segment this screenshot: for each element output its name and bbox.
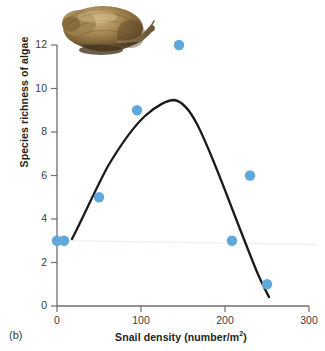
data-point xyxy=(174,40,184,50)
y-tick-label-4: 4 xyxy=(25,212,47,224)
x-tick-label-0: 0 xyxy=(42,314,72,326)
x-axis-title-tail: ) xyxy=(243,331,247,343)
data-point xyxy=(94,192,104,202)
y-tick-label-0: 0 xyxy=(25,299,47,311)
data-point xyxy=(59,236,69,246)
x-tick-label-300: 300 xyxy=(294,314,324,326)
y-axis-title: Species richness of algae xyxy=(18,22,30,182)
x-axis-title-main: Snail density (number/m xyxy=(115,331,239,343)
y-tick-label-2: 2 xyxy=(25,256,47,268)
scatter-plot-canvas xyxy=(0,0,325,351)
x-axis-title: Snail density (number/m2) xyxy=(50,330,312,343)
data-point xyxy=(262,279,272,289)
data-points xyxy=(52,40,272,290)
x-axis-ticks xyxy=(57,306,309,312)
data-point xyxy=(245,170,255,180)
data-point xyxy=(132,105,142,115)
panel-label: (b) xyxy=(9,329,22,341)
y-axis-ticks xyxy=(51,45,57,306)
axis-lines xyxy=(57,45,309,306)
data-point xyxy=(227,236,237,246)
x-tick-label-200: 200 xyxy=(210,314,240,326)
figure-panel-b: 12 10 8 6 4 2 0 0 100 200 300 Species ri… xyxy=(0,0,325,351)
x-tick-label-100: 100 xyxy=(126,314,156,326)
